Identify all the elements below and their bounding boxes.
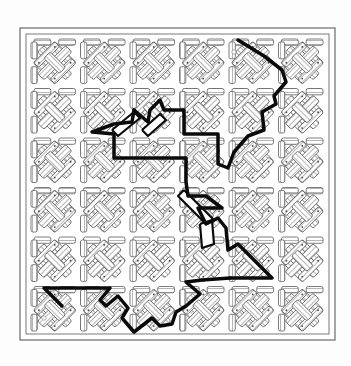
lattice-dot (54, 195, 56, 197)
lattice-band (31, 289, 37, 306)
lattice-dot (236, 161, 238, 163)
lattice-dot (286, 62, 288, 64)
lattice-band (81, 215, 87, 232)
lattice-band (279, 240, 285, 257)
lattice-junction (225, 85, 231, 91)
lattice-band (180, 215, 186, 232)
lattice-band (279, 116, 285, 133)
lattice-band (207, 287, 224, 293)
lattice-junction (77, 134, 83, 140)
lattice-dot (286, 210, 288, 212)
lattice-dot (153, 177, 155, 179)
lattice-dot (301, 325, 303, 327)
lattice-band (180, 141, 186, 158)
lattice-dot (137, 62, 139, 64)
lattice-dot (268, 161, 270, 163)
lattice-dot (38, 309, 40, 311)
lattice-band (207, 89, 224, 95)
lattice-dot (252, 96, 254, 98)
lattice-dot (252, 244, 254, 246)
lattice-dot (119, 111, 121, 113)
lattice-dot (301, 244, 303, 246)
lattice-band (306, 188, 323, 194)
lattice-dot (88, 260, 90, 262)
lattice-band (279, 215, 285, 232)
lattice-band (306, 89, 323, 95)
lattice-junction (176, 283, 182, 289)
lattice-band (108, 188, 125, 194)
lattice-junction (275, 283, 281, 289)
lattice-dot (103, 78, 105, 80)
lattice-junction (77, 233, 83, 239)
end-marker-icon (232, 50, 236, 54)
lattice-dot (103, 195, 105, 197)
lattice-dot (236, 62, 238, 64)
lattice-band (31, 190, 37, 207)
lattice-band (279, 314, 285, 331)
lattice-dot (268, 210, 270, 212)
lattice-dot (153, 325, 155, 327)
lattice-junction (126, 283, 132, 289)
lattice-band (81, 314, 87, 331)
lattice-band (229, 215, 235, 232)
lattice-band (229, 166, 235, 183)
lattice-band (180, 314, 186, 331)
lattice-band (158, 39, 175, 45)
lattice-junction (176, 184, 182, 190)
lattice-dot (54, 177, 56, 179)
lattice-dot (153, 276, 155, 278)
lattice-band (81, 166, 87, 183)
lattice-dot (286, 111, 288, 113)
lattice-dot (103, 96, 105, 98)
lattice-dot (301, 226, 303, 228)
lattice-dot (54, 244, 56, 246)
lattice-band (257, 89, 274, 95)
lattice-band (180, 42, 186, 59)
lattice-dot (119, 161, 121, 163)
lattice-dot (153, 78, 155, 80)
lattice-dot (202, 177, 204, 179)
lattice-band (306, 287, 323, 293)
lattice-dot (38, 62, 40, 64)
lattice-dot (137, 260, 139, 262)
lattice-band (279, 166, 285, 183)
lattice-band (207, 138, 224, 144)
lattice-band (279, 289, 285, 306)
lattice-dot (187, 62, 189, 64)
lattice-band (279, 265, 285, 282)
lattice-dot (252, 145, 254, 147)
lattice-junction (275, 184, 281, 190)
lattice-band (31, 265, 37, 282)
lattice-junction (126, 134, 132, 140)
lattice-band (180, 240, 186, 257)
lattice-dot (153, 96, 155, 98)
lattice-dot (54, 127, 56, 129)
lattice-band (31, 240, 37, 257)
lattice-junction (176, 85, 182, 91)
lattice-dot (54, 325, 56, 327)
lattice-band (108, 89, 125, 95)
lattice-dot (301, 276, 303, 278)
lattice-dot (54, 96, 56, 98)
lattice-dot (202, 145, 204, 147)
lattice-dot (70, 309, 72, 311)
lattice-band (130, 42, 136, 59)
lattice-junction (225, 184, 231, 190)
lattice-band (229, 289, 235, 306)
lattice-band (130, 265, 136, 282)
lattice-band (158, 89, 175, 95)
lattice-band (130, 91, 136, 108)
lattice-dot (268, 260, 270, 262)
lattice-dot (218, 309, 220, 311)
lattice-band (158, 138, 175, 144)
lattice-dot (301, 145, 303, 147)
start-marker-icon (42, 316, 46, 320)
lattice-band (130, 215, 136, 232)
lattice-dot (70, 62, 72, 64)
lattice-dot (70, 260, 72, 262)
lattice-dot (38, 210, 40, 212)
lattice-junction (176, 134, 182, 140)
lattice-band (59, 237, 76, 243)
lattice-dot (252, 294, 254, 296)
lattice-band (130, 141, 136, 158)
